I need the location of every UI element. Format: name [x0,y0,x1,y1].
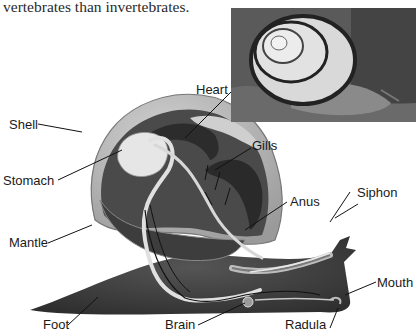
snail-photo-icon [231,8,416,122]
label-anus: Anus [290,195,320,208]
label-mouth: Mouth [377,276,413,289]
label-heart: Heart [196,83,228,96]
label-mantle: Mantle [9,236,48,249]
label-siphon: Siphon [357,186,397,199]
snail-photo [231,8,416,122]
brain-ganglion [243,297,253,307]
label-foot: Foot [43,318,69,331]
label-stomach: Stomach [3,174,54,187]
label-radula: Radula [285,318,326,331]
label-gills: Gills [252,139,277,152]
label-brain: Brain [165,318,195,331]
label-shell: Shell [9,118,38,131]
